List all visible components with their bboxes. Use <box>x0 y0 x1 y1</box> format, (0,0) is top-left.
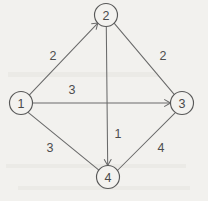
graph-node-1[interactable]: 1 <box>10 92 33 115</box>
edge-weight-2-4: 1 <box>115 127 122 141</box>
edge-weight-2-3: 2 <box>160 49 167 63</box>
graph-node-4[interactable]: 4 <box>97 166 120 189</box>
edge-weight-1-3: 3 <box>69 83 76 97</box>
edge-weight-4-3: 4 <box>158 141 165 155</box>
edge-line-1-4 <box>28 112 99 170</box>
edge-2-3: 2 <box>114 23 174 95</box>
edge-4-3: 4 <box>117 112 175 170</box>
node-label-1: 1 <box>18 97 25 111</box>
node-label-2: 2 <box>103 9 110 23</box>
edge-line-1-2 <box>29 23 98 95</box>
edge-line-2-4 <box>106 27 107 166</box>
graph-canvas: 2 2 3 3 1 4 <box>0 0 208 201</box>
edge-weight-1-4: 3 <box>47 141 54 155</box>
edge-weight-1-2: 2 <box>50 49 57 63</box>
node-label-4: 4 <box>105 171 112 185</box>
edge-2-4: 1 <box>104 27 121 166</box>
graph-figure: 2 2 3 3 1 4 <box>0 0 208 201</box>
edge-line-4-3 <box>117 112 175 170</box>
edge-1-4: 3 <box>28 112 99 170</box>
graph-node-3[interactable]: 3 <box>171 92 194 115</box>
graph-node-2[interactable]: 2 <box>95 4 118 27</box>
edge-1-2: 2 <box>29 23 98 95</box>
node-label-3: 3 <box>179 97 186 111</box>
edge-1-3: 3 <box>33 83 171 106</box>
